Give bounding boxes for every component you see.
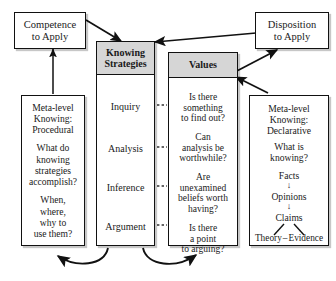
declarative-title-line-1: Meta-level (268, 103, 310, 114)
value-4-line-2: a point (190, 234, 216, 244)
declarative-title: Meta-level Knowing: Declarative (250, 103, 328, 137)
value-item-analysis[interactable]: Can analysis be worthwhile? (169, 132, 237, 164)
value-1-line-3: to find out? (181, 113, 225, 123)
arrow-disposition-to-knowing-strategies (155, 33, 256, 42)
diagram-canvas: Competence to Apply Disposition to Apply… (0, 0, 336, 281)
declarative-q-line-1: What is (274, 141, 304, 152)
meta-level-declarative-box[interactable]: Meta-level Knowing: Declarative What is … (249, 95, 329, 246)
arrow-competence-to-knowing-strategies (86, 20, 121, 41)
value-3-line-4: having? (188, 204, 218, 214)
down-arrow-icon: ↓ (250, 182, 328, 190)
value-3-line-3: beliefs worth (178, 193, 228, 203)
down-arrow-icon: ↓ (250, 203, 328, 211)
procedural-q2-line-4: use them? (34, 228, 73, 239)
value-3-line-1: Are (196, 172, 210, 182)
value-4-line-3: to arguing? (182, 244, 225, 254)
declarative-title-line-2: Knowing: (270, 114, 308, 125)
values-column[interactable]: Values Is there something to find out? C… (168, 52, 238, 246)
knowing-strategies-body: Inquiry Analysis Inference Argument (97, 75, 154, 245)
knowing-strategies-header-line-1: Knowing (106, 47, 145, 58)
value-2-line-1: Can (195, 132, 210, 142)
spacer (29, 135, 77, 142)
arrow-knowing-strategies-to-procedural (58, 248, 108, 264)
strategy-item-argument[interactable]: Argument (97, 221, 154, 232)
procedural-title-line-1: Meta-level (32, 102, 74, 113)
value-1-line-2: something (183, 103, 223, 113)
competence-to-apply-text: Competence to Apply (22, 19, 78, 43)
strategy-item-inference[interactable]: Inference (97, 182, 154, 193)
disposition-line-1: Disposition (268, 19, 316, 30)
value-1-line-1: Is there (189, 92, 217, 102)
competence-to-apply-box[interactable]: Competence to Apply (14, 12, 86, 49)
procedural-q1-line-1: What do (37, 142, 70, 153)
knowing-strategies-column[interactable]: Knowing Strategies Inquiry Analysis Infe… (96, 41, 155, 246)
value-item-inquiry[interactable]: Is there something to find out? (169, 92, 237, 124)
declarative-title-line-3: Declarative (267, 125, 311, 136)
declarative-question: What is knowing? (250, 141, 328, 163)
competence-line-1: Competence (24, 19, 76, 30)
knowing-strategies-header: Knowing Strategies (97, 42, 154, 75)
disposition-to-apply-text: Disposition to Apply (266, 19, 318, 43)
spacer (29, 187, 77, 194)
value-item-argument[interactable]: Is there a point to arguing? (169, 223, 237, 255)
leaf-evidence: Evidence (288, 233, 323, 244)
value-2-line-2: analysis be (182, 143, 224, 153)
values-body: Is there something to find out? Can anal… (169, 78, 237, 245)
value-2-line-3: worthwhile? (179, 153, 227, 163)
procedural-title-line-2: Knowing: (34, 113, 72, 124)
disposition-to-apply-box[interactable]: Disposition to Apply (255, 12, 329, 49)
arrow-declarative-to-values (236, 77, 268, 93)
procedural-q1-line-4: accomplish? (29, 176, 77, 187)
disposition-line-2: to Apply (274, 31, 310, 42)
values-header-label: Values (189, 59, 217, 71)
value-item-inference[interactable]: Are unexamined beliefs worth having? (169, 172, 237, 215)
competence-line-2: to Apply (32, 31, 68, 42)
procedural-q2-line-3: why to (40, 217, 66, 228)
strategy-item-inquiry[interactable]: Inquiry (97, 101, 154, 112)
value-3-line-2: unexamined (180, 183, 226, 193)
values-header: Values (169, 53, 237, 78)
procedural-q2-line-2: where, (40, 206, 66, 217)
theory-evidence-dash: – (282, 233, 289, 244)
arrow-values-to-disposition (233, 50, 277, 73)
leaf-theory: Theory (255, 233, 282, 244)
knowing-strategies-header-line-2: Strategies (104, 58, 146, 69)
procedural-q1-line-2: knowing (36, 154, 70, 165)
meta-level-procedural-box[interactable]: Meta-level Knowing: Procedural What do k… (21, 95, 85, 246)
declarative-q-line-2: knowing? (270, 152, 308, 163)
declarative-theory-evidence: Theory – Evidence (250, 233, 328, 244)
procedural-title-line-3: Procedural (32, 124, 74, 135)
meta-level-procedural-text: Meta-level Knowing: Procedural What do k… (27, 102, 79, 239)
procedural-q1-line-3: strategies (35, 165, 71, 176)
procedural-q2-line-1: When, (40, 194, 65, 205)
strategy-item-analysis[interactable]: Analysis (97, 143, 154, 154)
value-4-line-1: Is there (189, 223, 217, 233)
